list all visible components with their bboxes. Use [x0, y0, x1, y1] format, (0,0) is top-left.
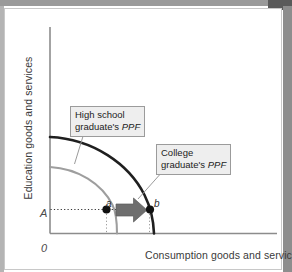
callout-college-ppf: College graduate's PPF [156, 144, 231, 175]
y-axis-title: Education goods and services [22, 43, 34, 213]
x-axis-title: Consumption goods and services [145, 249, 292, 261]
callout-college-prefix: graduate's [161, 159, 208, 170]
highschool-callout-leader [75, 133, 85, 164]
point-a-label: a [106, 198, 112, 209]
y-axis-tick-label-A: A [40, 207, 47, 219]
callout-high-school-ppf: High school graduate's PPF [70, 106, 145, 137]
origin-label: 0 [41, 242, 47, 254]
callout-college-ppf-abbr: PPF [208, 159, 226, 170]
callout-high-school-line2: graduate's PPF [75, 121, 140, 133]
college-callout-leader [138, 171, 163, 199]
college-ppf-curve [50, 137, 154, 234]
point-b-label: b [154, 198, 160, 209]
scan-edge-top [0, 0, 292, 6]
figure-panel: Education goods and services Consumption… [4, 8, 282, 270]
callout-high-school-ppf-abbr: PPF [122, 121, 140, 132]
callout-college-line2: graduate's PPF [161, 159, 226, 171]
callout-high-school-prefix: graduate's [75, 121, 122, 132]
figure-root: Education goods and services Consumption… [0, 0, 292, 272]
scan-edge-right [283, 6, 292, 272]
ppf-plot [5, 9, 283, 271]
point-b-marker [146, 205, 154, 213]
shift-arrow-icon [116, 198, 147, 222]
callout-college-line1: College [161, 147, 193, 158]
callout-high-school-line1: High school [75, 109, 125, 120]
